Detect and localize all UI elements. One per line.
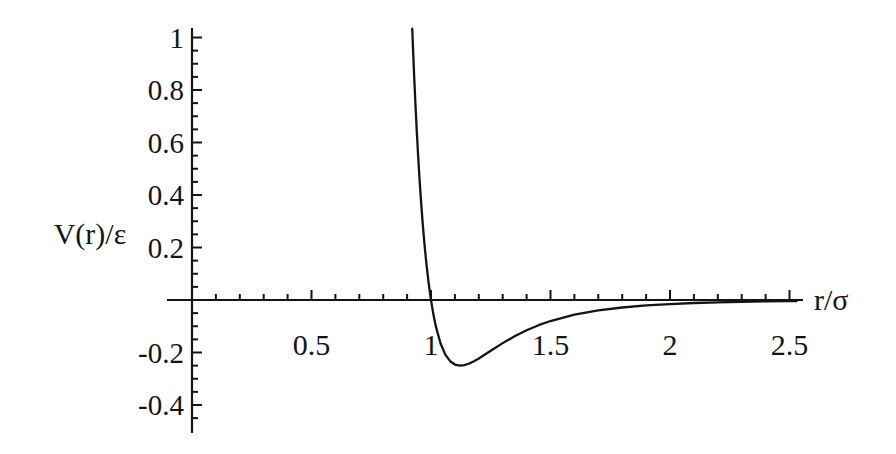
y-tick-label: -0.4 — [138, 389, 184, 422]
x-tick-label: 1 — [424, 328, 439, 362]
potential-curve — [412, 29, 796, 366]
x-tick-label: 1.5 — [532, 328, 570, 362]
y-tick-label: 0.6 — [148, 126, 184, 159]
y-tick-label: 0.8 — [148, 74, 184, 107]
y-tick-label: -0.2 — [138, 336, 184, 369]
x-tick-label: 2.5 — [771, 328, 809, 362]
y-tick-label: 1 — [170, 21, 185, 54]
y-tick-label: 0.4 — [148, 179, 184, 212]
lennard-jones-potential-figure: V(r)/ε r/σ 0.511.522.510.80.60.40.2-0.2-… — [0, 0, 896, 454]
x-tick-label: 0.5 — [293, 328, 331, 362]
x-tick-label: 2 — [663, 328, 678, 362]
y-tick-label: 0.2 — [148, 231, 184, 264]
y-axis-title: V(r)/ε — [30, 215, 150, 253]
x-axis-title: r/σ — [814, 281, 849, 319]
